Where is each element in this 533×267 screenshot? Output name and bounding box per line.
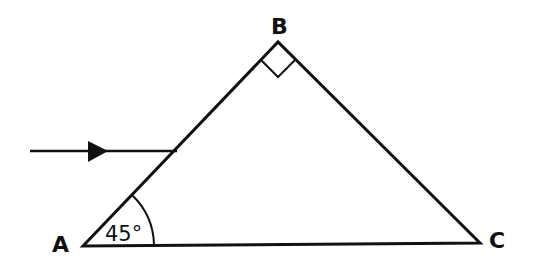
triangle-diagram: A B C 45° <box>0 0 533 267</box>
arrowhead-icon <box>88 141 108 162</box>
vertex-label-c: C <box>489 228 505 253</box>
vertex-label-a: A <box>52 232 69 257</box>
angle-label-a: 45° <box>105 222 142 246</box>
right-angle-marker <box>261 60 295 77</box>
vertex-label-b: B <box>271 14 288 39</box>
